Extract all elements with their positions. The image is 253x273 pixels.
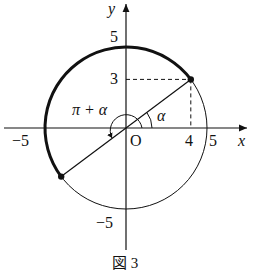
figure-caption: 図 3 <box>112 255 138 271</box>
point-neg4-neg3 <box>58 173 64 179</box>
tick-y-3: 3 <box>110 70 118 87</box>
point-4-3 <box>188 76 194 82</box>
unit-circle-diagram: y x O 5 3 −5 4 5 −5 α π + α 図 3 <box>0 0 253 273</box>
tick-x-4: 4 <box>185 132 193 149</box>
y-axis-label: y <box>106 0 116 18</box>
tick-y-5: 5 <box>110 28 118 45</box>
angle-alpha-label: α <box>157 107 166 124</box>
origin-label: O <box>130 132 142 149</box>
highlighted-arc <box>45 47 191 177</box>
tick-x-neg5: −5 <box>12 132 29 149</box>
angle-pi-plus-alpha-label: π + α <box>72 101 108 118</box>
angle-alpha-arc <box>147 112 152 128</box>
tick-y-neg5: −5 <box>96 214 113 231</box>
x-axis-label: x <box>237 132 245 149</box>
tick-x-5: 5 <box>209 132 217 149</box>
